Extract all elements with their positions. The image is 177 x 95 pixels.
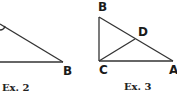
ex3-label-b: B	[98, 1, 107, 13]
ex2-label-b: B	[63, 65, 72, 77]
ex3-caption: Ex. 3	[124, 82, 152, 92]
ex2-hypotenuse	[0, 24, 63, 62]
ex3-label-d: D	[138, 26, 148, 38]
ex2-caption: Ex. 2	[2, 83, 30, 93]
figure-ex3	[99, 17, 173, 61]
figure-ex2	[0, 24, 63, 62]
ex2-angle-arc-icon	[0, 26, 5, 30]
ex3-label-a: A	[169, 64, 177, 76]
ex3-segment-cd	[99, 39, 135, 61]
ex3-label-c: C	[99, 64, 108, 76]
